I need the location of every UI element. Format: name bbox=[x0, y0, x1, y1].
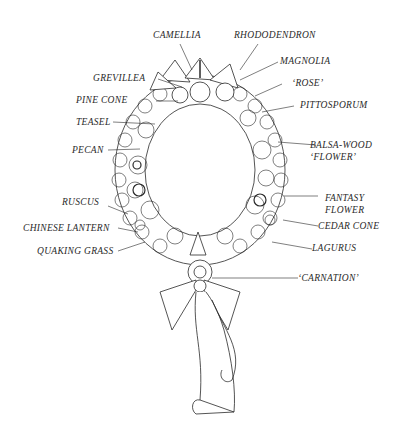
label-ruscus: RUSCUS bbox=[62, 197, 99, 208]
label-chinese-lantern: CHINESE LANTERN bbox=[23, 223, 110, 234]
label-fantasy-2: FLOWER bbox=[325, 205, 364, 216]
wreath-diagram: CAMELLIA RHODODENDRON MAGNOLIA GREVILLEA… bbox=[0, 0, 402, 441]
label-carnation: ‘CARNATION’ bbox=[298, 273, 359, 284]
label-pittosporum: PITTOSPORUM bbox=[300, 100, 368, 111]
label-balsa-wood-1: BALSA-WOOD bbox=[310, 140, 372, 151]
label-camellia: CAMELLIA bbox=[153, 30, 201, 41]
label-lagurus: LAGURUS bbox=[312, 243, 356, 254]
label-cedar-cone: CEDAR CONE bbox=[318, 221, 379, 232]
label-rhododendron: RHODODENDRON bbox=[234, 30, 316, 41]
label-quaking-grass: QUAKING GRASS bbox=[37, 246, 113, 257]
label-rose: ‘ROSE’ bbox=[292, 78, 323, 89]
label-grevillea: GREVILLEA bbox=[93, 73, 145, 84]
label-pecan: PECAN bbox=[72, 145, 104, 156]
label-balsa-wood-2: ‘FLOWER’ bbox=[310, 152, 356, 163]
label-teasel: TEASEL bbox=[76, 117, 111, 128]
label-fantasy-1: FANTASY bbox=[325, 193, 364, 204]
label-pine-cone: PINE CONE bbox=[76, 95, 128, 106]
label-magnolia: MAGNOLIA bbox=[280, 56, 330, 67]
